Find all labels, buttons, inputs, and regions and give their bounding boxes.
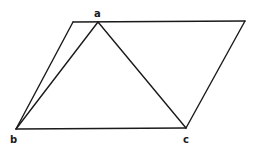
- edge-bottom: [16, 128, 186, 129]
- vertex-label-b: b: [10, 134, 17, 145]
- edge-ac: [98, 22, 186, 128]
- edge-left: [16, 22, 73, 129]
- vertex-label-a: a: [94, 8, 101, 19]
- edge-right: [186, 21, 245, 128]
- edge-ba: [16, 22, 98, 129]
- vertex-label-c: c: [183, 134, 189, 145]
- edge-top: [73, 21, 245, 22]
- geometry-diagram: a b c: [0, 0, 254, 154]
